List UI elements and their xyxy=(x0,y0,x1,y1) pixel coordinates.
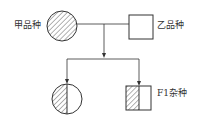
parent-male-square xyxy=(129,15,153,39)
offspring-circle xyxy=(52,84,82,114)
arrow-icon xyxy=(102,53,106,58)
cross-diagram xyxy=(0,0,199,118)
parent-female-label: 甲品种 xyxy=(14,20,41,30)
parent-male-label: 乙品种 xyxy=(157,20,184,30)
parent-female-circle xyxy=(47,11,77,41)
arrow-icon xyxy=(65,79,69,84)
arrow-icon xyxy=(137,81,141,86)
offspring-label: F1杂种 xyxy=(157,88,187,98)
offspring-square xyxy=(126,86,151,110)
